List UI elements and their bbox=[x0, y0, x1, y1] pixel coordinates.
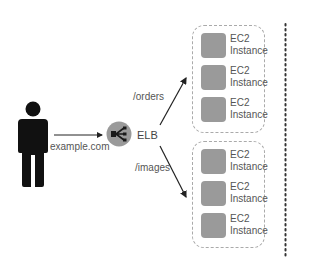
instance-type: EC2 bbox=[230, 149, 268, 161]
instance-type: EC2 bbox=[230, 65, 268, 77]
instance-label: Instance bbox=[230, 77, 268, 89]
instance-label: Instance bbox=[230, 45, 268, 57]
instance-label: Instance bbox=[230, 109, 268, 121]
instance-type: EC2 bbox=[230, 33, 268, 45]
instance-type: EC2 bbox=[230, 97, 268, 109]
domain-label: example.com bbox=[50, 141, 109, 152]
elb-label: ELB bbox=[137, 129, 158, 141]
ec2-instance: EC2 Instance bbox=[201, 65, 269, 91]
ec2-instance: EC2 Instance bbox=[201, 213, 269, 239]
instance-group-images: EC2 Instance EC2 Instance EC2 Instance bbox=[192, 141, 265, 248]
ec2-instance-icon bbox=[201, 97, 226, 122]
ec2-instance: EC2 Instance bbox=[201, 149, 269, 175]
ec2-instance-icon bbox=[201, 181, 226, 206]
instance-label: Instance bbox=[230, 161, 268, 173]
dotted-boundary-line bbox=[284, 24, 286, 256]
ec2-instance: EC2 Instance bbox=[201, 181, 269, 207]
instance-group-orders: EC2 Instance EC2 Instance EC2 Instance bbox=[192, 25, 265, 133]
ec2-instance-icon bbox=[201, 213, 226, 238]
route-label-images: /images bbox=[135, 162, 170, 173]
route-label-orders: /orders bbox=[133, 91, 164, 102]
instance-label: Instance bbox=[230, 193, 268, 205]
instance-type: EC2 bbox=[230, 181, 268, 193]
instance-type: EC2 bbox=[230, 213, 268, 225]
ec2-instance: EC2 Instance bbox=[201, 97, 269, 123]
ec2-instance-icon bbox=[201, 65, 226, 90]
elb-icon bbox=[106, 121, 132, 147]
ec2-instance-icon bbox=[201, 149, 226, 174]
ec2-instance-icon bbox=[201, 33, 226, 58]
instance-label: Instance bbox=[230, 225, 268, 237]
ec2-instance: EC2 Instance bbox=[201, 33, 269, 59]
